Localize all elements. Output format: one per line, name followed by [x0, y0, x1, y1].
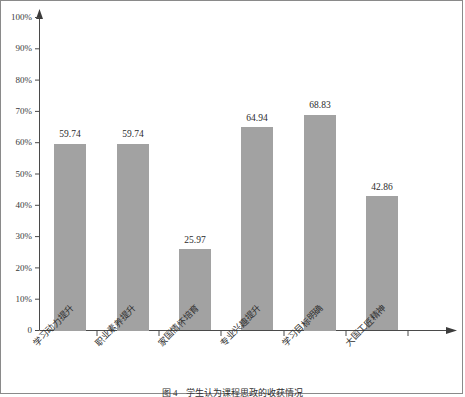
- y-tick-label: 20%: [0, 264, 32, 273]
- bar[interactable]: [241, 127, 273, 330]
- bar-value-label: 64.94: [231, 113, 283, 123]
- y-tick-label: 10%: [0, 295, 32, 304]
- x-axis-arrow-icon: [446, 327, 457, 334]
- y-tick-label: 70%: [0, 107, 32, 116]
- bar-value-label: 59.74: [107, 129, 159, 139]
- y-tick-label: 80%: [0, 76, 32, 85]
- y-tick-label: 50%: [0, 170, 32, 179]
- bar-value-label: 59.74: [44, 129, 96, 139]
- y-tick-label: 100%: [0, 13, 32, 22]
- bar-value-label: 68.83: [294, 100, 346, 110]
- figure-caption: 图 4 学生认为课程思政的收获情况: [0, 388, 465, 397]
- bar[interactable]: [117, 144, 149, 331]
- y-tick-label: 30%: [0, 232, 32, 241]
- y-tick-label: 60%: [0, 138, 32, 147]
- y-tick-label: 40%: [0, 201, 32, 210]
- bar-value-label: 25.97: [169, 235, 221, 245]
- y-tick-label: 0: [0, 326, 32, 335]
- y-tick-marks: [35, 18, 40, 331]
- bar[interactable]: [54, 144, 86, 331]
- bar[interactable]: [304, 115, 336, 331]
- bar-value-label: 42.86: [356, 182, 408, 192]
- y-tick-label: 90%: [0, 44, 32, 53]
